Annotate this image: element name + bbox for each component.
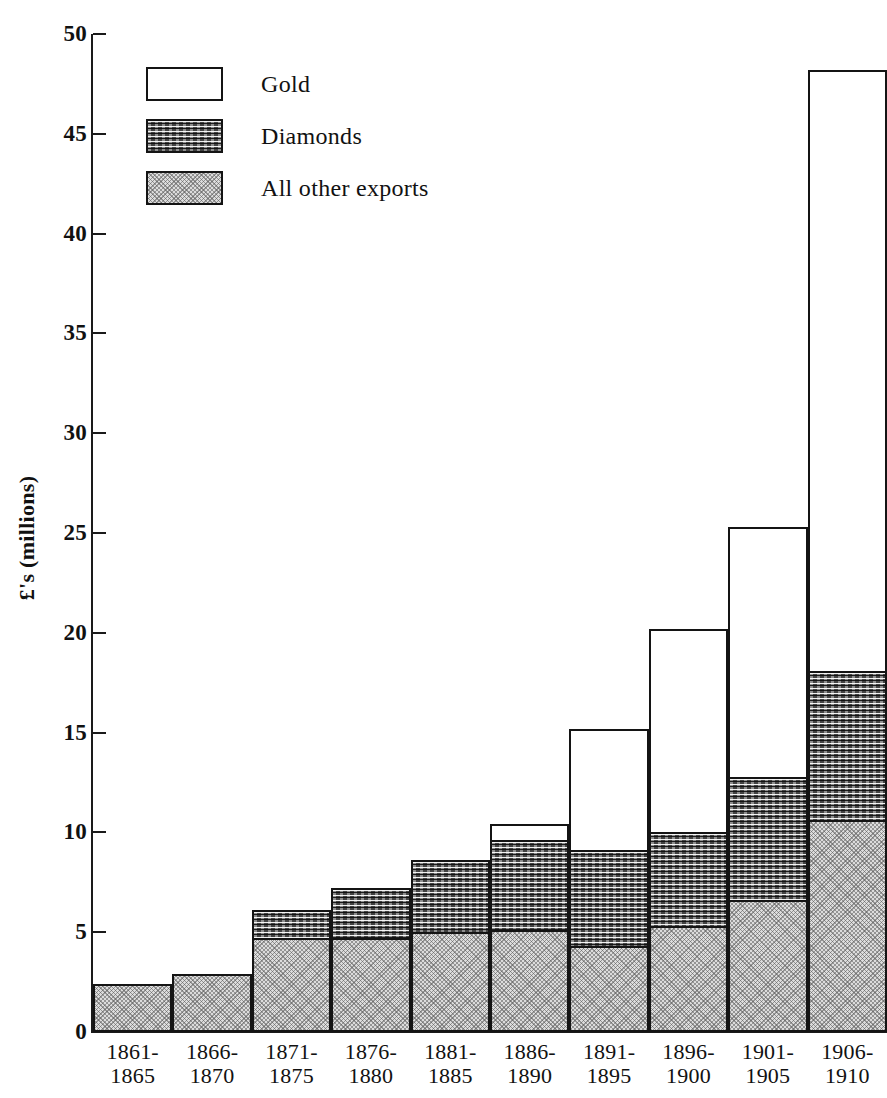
x-axis-tick-label: 1881-1885 [411, 1040, 490, 1088]
bar[interactable] [252, 912, 331, 1032]
x-axis-tick-label-line: 1870 [172, 1064, 251, 1088]
bar-segment-diamonds[interactable] [808, 671, 887, 823]
y-axis-tick-label: 15 [43, 721, 87, 744]
bar-segment-diamonds[interactable] [411, 860, 490, 934]
x-axis-tick-label: 1891-1895 [569, 1040, 648, 1088]
x-axis-tick-label-line: 1906- [808, 1040, 887, 1064]
x-axis-tick-label-line: 1910 [808, 1064, 887, 1088]
bar[interactable] [93, 986, 172, 1032]
legend-item[interactable]: All other exports [146, 166, 429, 210]
legend-item[interactable]: Gold [146, 62, 429, 106]
bar[interactable] [569, 731, 648, 1032]
bar-segment-gold[interactable] [808, 70, 887, 673]
x-axis-tick-label-line: 1896- [649, 1040, 728, 1064]
bar-segment-other[interactable] [569, 946, 648, 1032]
bar-segment-diamonds[interactable] [728, 777, 807, 903]
x-axis-tick-label-line: 1891- [569, 1040, 648, 1064]
bar-segment-gold[interactable] [649, 629, 728, 835]
bar-segment-gold[interactable] [728, 527, 807, 779]
x-axis-tick-label-line: 1876- [331, 1040, 410, 1064]
x-axis-tick-label-line: 1865 [93, 1064, 172, 1088]
x-axis-tick-label: 1906-1910 [808, 1040, 887, 1088]
bar-segment-diamonds[interactable] [569, 850, 648, 948]
legend-item-label: All other exports [261, 175, 429, 202]
bar-segment-diamonds[interactable] [252, 910, 331, 940]
bar[interactable] [649, 631, 728, 1032]
x-axis-tick-label-line: 1861- [93, 1040, 172, 1064]
bar[interactable] [728, 529, 807, 1032]
bar-segment-other[interactable] [490, 930, 569, 1032]
bar[interactable] [490, 826, 569, 1032]
legend-swatch-diamonds [146, 119, 223, 153]
x-axis-tick-label-line: 1875 [252, 1064, 331, 1088]
y-axis-tick-label: 25 [43, 521, 87, 544]
y-axis-tick-label: 35 [43, 321, 87, 344]
bar[interactable] [411, 862, 490, 1032]
bar[interactable] [331, 890, 410, 1032]
x-axis-tick-label-line: 1886- [490, 1040, 569, 1064]
bar-segment-other[interactable] [728, 900, 807, 1032]
stacked-bar-chart: £'s (millions) 05101520253035404550 1861… [0, 0, 887, 1098]
y-axis-tick-label: 40 [43, 222, 87, 245]
bar-segment-other[interactable] [252, 938, 331, 1032]
bar-segment-other[interactable] [411, 932, 490, 1032]
y-axis-tick-label: 45 [43, 122, 87, 145]
bar-segment-gold[interactable] [490, 824, 569, 842]
y-axis-tick-label: 20 [43, 621, 87, 644]
bar-segment-other[interactable] [808, 820, 887, 1032]
x-axis-tick-label: 1901-1905 [728, 1040, 807, 1088]
bar-segment-gold[interactable] [569, 729, 648, 853]
x-axis-tick-label: 1866-1870 [172, 1040, 251, 1088]
x-axis-tick-label-line: 1866- [172, 1040, 251, 1064]
legend-item-label: Diamonds [261, 123, 362, 150]
x-axis-tick-label-line: 1871- [252, 1040, 331, 1064]
y-axis-tick-label: 30 [43, 421, 87, 444]
y-axis-title: £'s (millions) [14, 428, 40, 648]
x-axis-tick-label-line: 1881- [411, 1040, 490, 1064]
bar[interactable] [172, 976, 251, 1032]
legend-item-label: Gold [261, 71, 310, 98]
x-axis-tick-label-line: 1901- [728, 1040, 807, 1064]
bar-segment-diamonds[interactable] [331, 888, 410, 940]
x-axis-tick-label: 1871-1875 [252, 1040, 331, 1088]
y-axis-tick-label: 50 [43, 22, 87, 45]
y-axis-tick-label: 10 [43, 820, 87, 843]
chart-legend: GoldDiamondsAll other exports [146, 62, 429, 218]
x-axis-tick-label-line: 1900 [649, 1064, 728, 1088]
bar-segment-other[interactable] [331, 938, 410, 1032]
x-axis-tick-label-line: 1885 [411, 1064, 490, 1088]
y-axis-tick-label: 0 [43, 1020, 87, 1043]
bar[interactable] [808, 72, 887, 1032]
y-axis-tick-label: 5 [43, 920, 87, 943]
x-axis-tick-label-line: 1890 [490, 1064, 569, 1088]
legend-item[interactable]: Diamonds [146, 114, 429, 158]
x-axis-tick-label-line: 1880 [331, 1064, 410, 1088]
x-axis-tick-label: 1896-1900 [649, 1040, 728, 1088]
bar-segment-other[interactable] [93, 984, 172, 1032]
x-axis-tick-label: 1861-1865 [93, 1040, 172, 1088]
x-axis-tick-label: 1886-1890 [490, 1040, 569, 1088]
bar-segment-other[interactable] [172, 974, 251, 1032]
x-axis-tick-label: 1876-1880 [331, 1040, 410, 1088]
bar-segment-diamonds[interactable] [649, 832, 728, 928]
legend-swatch-gold [146, 67, 223, 101]
legend-swatch-other [146, 171, 223, 205]
x-axis-tick-label-line: 1895 [569, 1064, 648, 1088]
bar-segment-diamonds[interactable] [490, 840, 569, 932]
bar-segment-other[interactable] [649, 926, 728, 1032]
x-axis-tick-label-line: 1905 [728, 1064, 807, 1088]
